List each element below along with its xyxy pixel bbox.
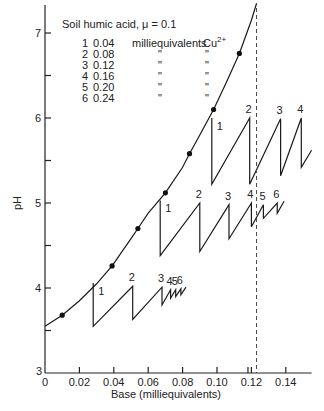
legend-entry-unit: " xyxy=(158,92,162,104)
x-tick-label: 0.10 xyxy=(206,376,227,388)
x-tick-label: 0.06 xyxy=(137,376,158,388)
series-label: 1 xyxy=(165,202,171,214)
series-label: 4 xyxy=(247,188,253,200)
series-label: 3 xyxy=(277,104,283,116)
sawtooth-series-1 xyxy=(93,283,186,326)
curve-marker xyxy=(211,107,216,112)
y-tick-label: 6 xyxy=(35,112,41,124)
y-axis-label: pH xyxy=(11,196,23,210)
y-tick-label: 3 xyxy=(36,365,42,377)
curve-marker xyxy=(163,190,168,195)
series-label: 3 xyxy=(158,272,164,284)
curve-marker xyxy=(135,226,140,231)
series-label: 5 xyxy=(259,190,265,202)
main-titration-curve xyxy=(45,3,257,326)
curve-marker xyxy=(109,263,114,268)
sawtooth-series-2 xyxy=(160,200,284,255)
y-tick-label: 7 xyxy=(35,27,41,39)
series-label: 6 xyxy=(177,274,183,286)
legend-entry-ion: Cu2+ xyxy=(203,35,227,49)
x-tick-label: 0.14 xyxy=(275,376,296,388)
ph-titration-chart: 00.020.040.060.080.100.120.1434567 12345… xyxy=(0,0,324,411)
series-label: 1 xyxy=(217,120,223,132)
series-label: 2 xyxy=(129,271,135,283)
legend-entry-ion: " xyxy=(205,92,209,104)
x-tick-label: 0.02 xyxy=(69,376,90,388)
curve-marker xyxy=(237,51,242,56)
x-tick-label: 0.04 xyxy=(103,376,124,388)
legend-entry-id: 6 xyxy=(82,92,88,104)
legend: Soil humic acid, μ = 0.1 10.04milliequiv… xyxy=(62,18,227,104)
x-tick-label: 0.12 xyxy=(241,376,262,388)
series-label: 2 xyxy=(196,188,202,200)
y-tick-label: 5 xyxy=(35,197,41,209)
curve-marker xyxy=(60,313,65,318)
x-axis-label: Base (milliequivalents) xyxy=(111,388,221,400)
series-label: 3 xyxy=(225,190,231,202)
curve-marker xyxy=(187,151,192,156)
legend-header: Soil humic acid, μ = 0.1 xyxy=(62,18,176,30)
series-label: 2 xyxy=(246,103,252,115)
y-tick-label: 4 xyxy=(35,282,41,294)
x-tick-label: 0.08 xyxy=(172,376,193,388)
sawtooth-series-3 xyxy=(212,118,312,184)
series-label: 4 xyxy=(297,103,303,115)
legend-entry-unit: milliequivalents xyxy=(132,37,207,49)
legend-entry-value: 0.24 xyxy=(93,92,114,104)
x-tick-label: 0 xyxy=(42,376,48,388)
series-label: 6 xyxy=(273,188,279,200)
series-label: 1 xyxy=(98,285,104,297)
